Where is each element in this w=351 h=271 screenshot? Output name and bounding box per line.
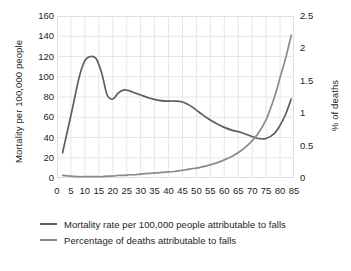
- legend-line-icon-mortality: [40, 223, 57, 225]
- plot-canvas: [57, 16, 294, 178]
- x-tick-label: 85: [283, 186, 305, 196]
- legend-item-mortality: Mortality rate per 100,000 people attrib…: [40, 216, 340, 232]
- legend-label-mortality: Mortality rate per 100,000 people attrib…: [64, 219, 286, 230]
- plot-area: [57, 16, 294, 178]
- chart-legend: Mortality rate per 100,000 people attrib…: [40, 216, 340, 248]
- legend-item-percentage: Percentage of deaths attributable to fal…: [40, 232, 340, 248]
- series-line-mortality: [63, 56, 292, 152]
- chart-figure: Mortality per 100,000 people % of deaths…: [0, 0, 351, 271]
- legend-line-icon-percentage: [40, 239, 57, 241]
- legend-label-percentage: Percentage of deaths attributable to fal…: [64, 235, 236, 246]
